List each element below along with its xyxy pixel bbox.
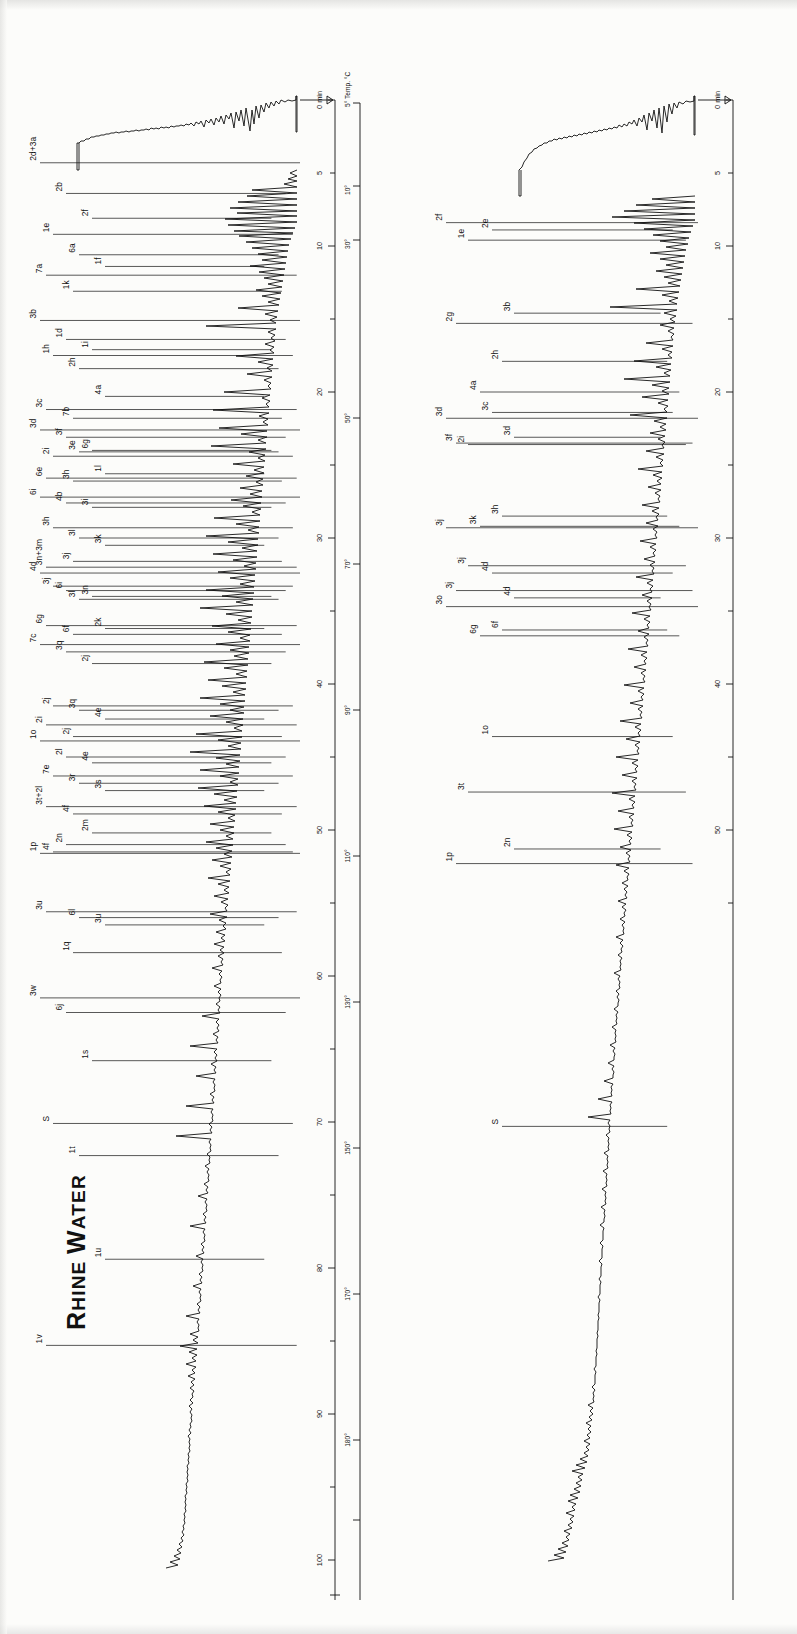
- chromatogram-svg-rhine: 0 min 5 10 20 30 40 50 60 70 80 90 100: [0, 0, 400, 1634]
- chromatogram-panel-sand-bank-filtrate: 0 min 5 10 20 30 40 50 2f2e1e3b2g2h4a3d3…: [398, 0, 797, 1634]
- peak-label: 3d: [502, 426, 512, 436]
- time-tick-40: 40: [315, 680, 324, 688]
- time-tick-50-sbf: 50: [713, 826, 722, 834]
- peak-label: 3f: [444, 433, 454, 441]
- peak-label: 2n: [502, 837, 512, 847]
- peak-label: 2j: [80, 655, 90, 662]
- peak-label: 3w: [28, 984, 38, 996]
- peak-label: 3k: [468, 515, 478, 525]
- sbf-body: [548, 196, 695, 1561]
- peak-label: 2b: [54, 182, 64, 192]
- time-tick-100: 100: [315, 1554, 324, 1566]
- peak-label: 2h: [67, 357, 77, 367]
- peak-label: 1l: [93, 465, 103, 472]
- peak-label: 3l: [67, 529, 77, 536]
- peak-label: 1o: [28, 729, 38, 739]
- peak-label: 2k: [93, 617, 103, 627]
- peak-label: 2m: [80, 819, 90, 831]
- time-tick-80: 80: [315, 1264, 324, 1272]
- peak-label: 1e: [456, 228, 466, 238]
- time-tick-70: 70: [315, 1118, 324, 1126]
- peak-label: 1f: [93, 257, 103, 265]
- peak-label: 2i: [456, 436, 466, 443]
- temp-tick-70: 90°: [344, 705, 351, 715]
- peak-label: 3s: [93, 780, 103, 789]
- peak-label: 7c: [28, 634, 38, 643]
- peak-label: 3l: [67, 591, 77, 598]
- peak-label: 6g: [34, 614, 44, 624]
- rhine-peak-label-group: 2d+3a2b2f1e6a1f7a1k3b1d1i1h2h4a3c7b3d3f6…: [28, 137, 300, 1346]
- peak-label: 1v: [34, 1334, 44, 1344]
- peak-label: 3u: [93, 913, 103, 923]
- peak-label: 3u: [34, 900, 44, 910]
- peak-label: 3t: [456, 782, 466, 790]
- trace-rhine: [77, 96, 296, 143]
- peak-label: 1o: [480, 725, 490, 735]
- peak-label: 6i: [54, 582, 64, 589]
- time-tick-40-sbf: 40: [713, 680, 722, 688]
- peak-label: 3q: [54, 640, 64, 650]
- temp-tick-5: 10°: [344, 185, 351, 195]
- temp-tick-130: 150°: [344, 1141, 351, 1155]
- peak-label: 2f: [80, 209, 90, 217]
- peak-label: 4b: [54, 491, 64, 501]
- peak-label: 6g: [80, 439, 90, 449]
- peak-label: 3f: [54, 428, 64, 436]
- figure-page: 0 min 5 10 20 30 40 50 60 70 80 90 100: [0, 0, 797, 1634]
- time-tick-20-sbf: 20: [713, 388, 722, 396]
- temp-axis-ticks: [353, 103, 360, 1520]
- temp-tick-90: 110°: [344, 849, 351, 863]
- time-tick-60: 60: [315, 972, 324, 980]
- peak-label: 4a: [468, 380, 478, 390]
- time-tick-10-sbf: 10: [713, 242, 722, 250]
- axis-group-rhine: 0 min 5 10 20 30 40 50 60 70 80 90 100: [300, 72, 360, 1600]
- peak-label: 2h: [490, 350, 500, 360]
- peak-label: 4f: [41, 842, 51, 850]
- temp-tick-150: 170°: [344, 1287, 351, 1301]
- peak-label: 4d: [28, 561, 38, 571]
- time-tick-30: 30: [315, 534, 324, 542]
- peak-label: 4e: [93, 707, 103, 717]
- trace-rhine-injection-step: [296, 96, 297, 132]
- peak-label: 3h: [490, 504, 500, 514]
- peak-label: 2l: [54, 748, 64, 755]
- sbf-trace-group: [519, 96, 695, 196]
- peak-label: 3c: [34, 398, 44, 407]
- chromatogram-svg-sbf: 0 min 5 10 20 30 40 50 2f2e1e3b2g2h4a3d3…: [398, 0, 797, 1634]
- peak-label: 7b: [61, 407, 71, 417]
- peak-label: 2i: [41, 447, 51, 454]
- temp-tick-30: 50°: [344, 413, 351, 423]
- peak-label: 6l: [67, 909, 77, 916]
- peak-label: 6g: [468, 624, 478, 634]
- peak-label: 2n: [54, 833, 64, 843]
- temp-tick-170: 180°: [344, 1433, 351, 1447]
- peak-label: 3h: [41, 516, 51, 526]
- rhine-body: [166, 170, 297, 1568]
- time-axis-ticks-sbf: [726, 100, 733, 903]
- peak-label: 4d: [502, 586, 512, 596]
- peak-label: 1i: [80, 341, 90, 348]
- peak-label: 6f: [61, 625, 71, 633]
- time-tick-5: 5: [315, 171, 324, 175]
- peak-label: 6e: [34, 466, 44, 476]
- peak-label: 4f: [61, 804, 71, 812]
- peak-label: 3d: [28, 418, 38, 428]
- chromatogram-panel-rhine-water: 0 min 5 10 20 30 40 50 60 70 80 90 100: [0, 0, 400, 1634]
- peak-label: 4e: [80, 751, 90, 761]
- peak-label: 6a: [67, 243, 77, 253]
- peak-label: 3o: [434, 595, 444, 605]
- trace-sbf-injection-step: [694, 96, 695, 135]
- peak-label: 3j: [434, 519, 444, 526]
- peak-label: 7e: [41, 764, 51, 774]
- peak-label: 1t: [67, 1146, 77, 1154]
- peak-label: 1u: [93, 1247, 103, 1257]
- time-tick-50: 50: [315, 826, 324, 834]
- time-tick-90: 90: [315, 1410, 324, 1418]
- peak-label: 3j: [61, 553, 71, 560]
- trace-sbf-main: [548, 196, 695, 1561]
- peak-label: 7a: [34, 263, 44, 273]
- peak-label: 2f: [434, 213, 444, 221]
- peak-label: 3e: [67, 440, 77, 450]
- peak-label: 1e: [41, 223, 51, 233]
- peak-label: 3j: [444, 582, 454, 589]
